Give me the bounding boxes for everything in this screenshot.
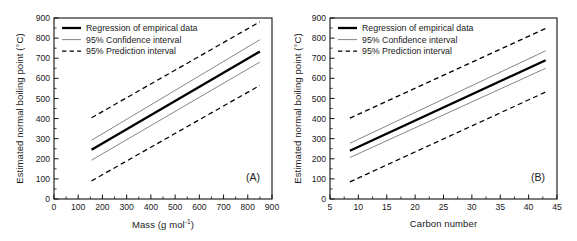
y-tick-label: 700 bbox=[36, 53, 51, 63]
legend-label: Regression of empirical data bbox=[86, 23, 198, 33]
x-tick-label: 45 bbox=[552, 202, 562, 212]
y-tick-label: 600 bbox=[36, 73, 51, 83]
panel-b-y-axis-title: Estimated normal boiling point (°C) bbox=[292, 18, 303, 199]
y-tick-label: 100 bbox=[312, 174, 327, 184]
chart-panel-a: 0100200300400500600700800900010020030040… bbox=[0, 0, 288, 241]
y-tick-label: 200 bbox=[36, 154, 51, 164]
y-tick-label: 0 bbox=[45, 194, 50, 204]
x-tick-label: 600 bbox=[192, 202, 207, 212]
x-tick-label: 200 bbox=[95, 202, 110, 212]
panel-b-x-axis-title: Carbon number bbox=[330, 218, 557, 229]
x-tick-label: 0 bbox=[52, 202, 57, 212]
x-tick-label: 700 bbox=[216, 202, 231, 212]
panel-b-plot: 0100200300400500600700800900510152025303… bbox=[289, 0, 577, 241]
panel-a-y-axis-title: Estimated normal boiling point (°C) bbox=[14, 18, 25, 199]
x-tick-label: 35 bbox=[495, 202, 505, 212]
x-tick-label: 100 bbox=[71, 202, 86, 212]
y-tick-label: 300 bbox=[36, 134, 51, 144]
x-tick-label: 20 bbox=[410, 202, 420, 212]
legend-label: 95% Confidence interval bbox=[362, 35, 457, 45]
series-line bbox=[350, 51, 546, 144]
legend-label: Regression of empirical data bbox=[362, 23, 474, 33]
legend-label: 95% Prediction interval bbox=[362, 46, 452, 56]
y-tick-label: 500 bbox=[312, 94, 327, 104]
x-tick-label: 10 bbox=[354, 202, 364, 212]
y-tick-label: 400 bbox=[312, 114, 327, 124]
y-tick-label: 800 bbox=[36, 33, 51, 43]
x-tick-label: 500 bbox=[168, 202, 183, 212]
legend-label: 95% Confidence interval bbox=[86, 35, 181, 45]
panel-tag: (A) bbox=[246, 171, 260, 183]
y-tick-label: 200 bbox=[312, 154, 327, 164]
y-tick-label: 0 bbox=[321, 194, 326, 204]
y-tick-label: 100 bbox=[36, 174, 51, 184]
panel-a-plot: 0100200300400500600700800900010020030040… bbox=[0, 0, 288, 241]
x-tick-label: 30 bbox=[467, 202, 477, 212]
series-line bbox=[350, 60, 546, 151]
y-tick-label: 300 bbox=[312, 134, 327, 144]
panel-tag: (B) bbox=[531, 171, 545, 183]
y-tick-label: 500 bbox=[36, 94, 51, 104]
figure-root: 0100200300400500600700800900010020030040… bbox=[0, 0, 577, 241]
x-tick-label: 800 bbox=[241, 202, 256, 212]
y-tick-label: 800 bbox=[312, 33, 327, 43]
panel-a-x-axis-title: Mass (g mol-1) bbox=[54, 218, 272, 230]
y-tick-label: 700 bbox=[312, 53, 327, 63]
x-tick-label: 5 bbox=[328, 202, 333, 212]
legend-label: 95% Prediction interval bbox=[86, 46, 176, 56]
x-tick-label: 15 bbox=[382, 202, 392, 212]
y-tick-label: 900 bbox=[312, 13, 327, 23]
x-tick-label: 300 bbox=[119, 202, 134, 212]
x-tick-label: 40 bbox=[524, 202, 534, 212]
x-tick-label: 900 bbox=[265, 202, 280, 212]
chart-panel-b: 0100200300400500600700800900510152025303… bbox=[289, 0, 577, 241]
x-tick-label: 400 bbox=[144, 202, 159, 212]
series-line bbox=[350, 68, 546, 157]
x-tick-label: 25 bbox=[439, 202, 449, 212]
y-tick-label: 600 bbox=[312, 73, 327, 83]
series-line bbox=[92, 52, 260, 150]
y-tick-label: 400 bbox=[36, 114, 51, 124]
y-tick-label: 900 bbox=[36, 13, 51, 23]
series-line bbox=[92, 62, 260, 160]
